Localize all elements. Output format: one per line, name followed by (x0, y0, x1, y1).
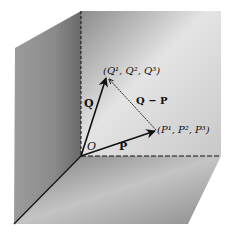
origin-label: O (87, 140, 96, 153)
point-p-label: (P¹, P², P³) (157, 124, 210, 135)
vector-q-label: Q (84, 97, 94, 110)
vector-q-minus-p-label: Q − P (136, 95, 168, 106)
vector-p-label: P (119, 140, 127, 153)
point-q-label: (Q¹, Q², Q³) (103, 65, 160, 76)
vector-diagram: O Q P Q − P (Q¹, Q², Q³) (P¹, P², P³) (0, 0, 234, 235)
